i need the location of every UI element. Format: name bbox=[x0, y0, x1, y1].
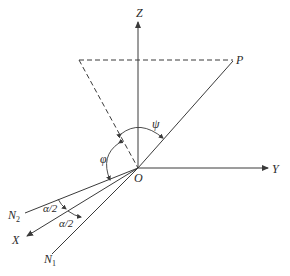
x-axis-label: X bbox=[11, 233, 20, 247]
phi-angle-label: φ bbox=[100, 152, 107, 166]
n1-label: N1 bbox=[43, 252, 56, 268]
alpha-half-label-upper: α/2 bbox=[43, 202, 58, 214]
z-axis-label: Z bbox=[136, 6, 143, 20]
n2-line bbox=[25, 168, 138, 213]
angle-diagram: Z Y P N2 X N1 O ψ φ α/2 α/2 bbox=[0, 0, 290, 276]
n2-label: N2 bbox=[7, 208, 20, 224]
psi-angle-label: ψ bbox=[152, 117, 160, 131]
alpha-half-arc-upper bbox=[58, 199, 66, 209]
op-line bbox=[138, 61, 233, 168]
dashed-projection-line bbox=[79, 60, 138, 168]
y-axis-label: Y bbox=[272, 162, 280, 176]
origin-label: O bbox=[134, 171, 143, 185]
phi-angle-arc bbox=[107, 143, 119, 180]
alpha-half-label-lower: α/2 bbox=[59, 217, 74, 229]
n1-line bbox=[52, 168, 138, 254]
point-p-label: P bbox=[235, 53, 244, 67]
